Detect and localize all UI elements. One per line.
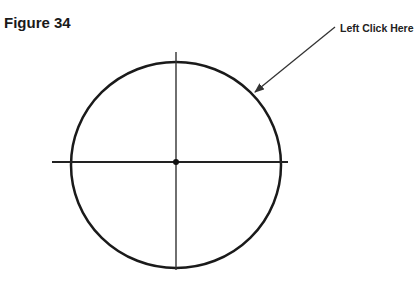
diagram-canvas bbox=[0, 0, 414, 290]
callout-arrow bbox=[255, 27, 335, 92]
center-point bbox=[173, 159, 179, 165]
